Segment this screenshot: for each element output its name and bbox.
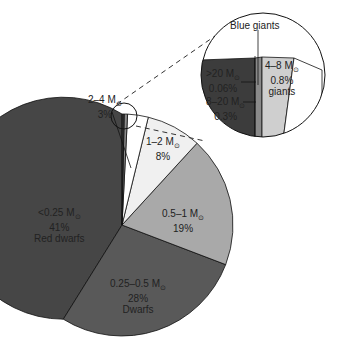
label-dwarfs: 0.25–0.5 M⊙28%Dwarfs [110,278,166,315]
pie-graphic [0,0,338,345]
pie-chart: 2–4 M⊙3% 1–2 M⊙8% 0.5–1 M⊙19% 0.25–0.5 M… [0,0,338,345]
label-4-8: 4–8 M⊙0.8%giants [265,60,299,97]
label-0.5-1: 0.5–1 M⊙19% [162,208,204,234]
label-1-2: 1–2 M⊙8% [146,136,180,162]
label-gt20: >20 M⊙0.06% [206,68,240,94]
label-8-20: 8–20 M⊙0.3% [206,96,245,122]
label-red-dwarfs: <0.25 M⊙41%Red dwarfs [34,207,85,244]
label-blue-giants: Blue giants [230,20,279,31]
label-2-4: 2–4 M⊙3% [88,94,122,120]
